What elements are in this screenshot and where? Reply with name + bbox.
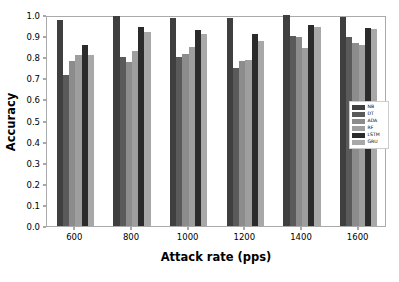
y-tick-label: 0.8 <box>26 53 40 63</box>
x-tick-mark <box>131 227 132 230</box>
legend-item-lstm[interactable]: LSTM <box>352 132 386 139</box>
x-tick-mark <box>357 227 358 230</box>
x-axis-label: Attack rate (pps) <box>46 250 386 264</box>
legend-swatch-rf <box>352 126 365 131</box>
y-tick-label: 1.0 <box>26 11 40 21</box>
legend-label: NB <box>368 105 375 110</box>
legend-label: LSTM <box>368 133 380 138</box>
y-tick-label: 0.1 <box>26 201 40 211</box>
legend-swatch-nb <box>352 105 365 110</box>
y-tick-label: 0.5 <box>26 117 40 127</box>
legend: NBDTADARFLSTMGRU <box>349 101 389 149</box>
y-tick-label: 0.3 <box>26 159 40 169</box>
legend-item-ada[interactable]: ADA <box>352 118 386 125</box>
legend-swatch-lstm <box>352 133 365 138</box>
legend-item-dt[interactable]: DT <box>352 111 386 118</box>
bar <box>144 32 150 226</box>
figure: Accuracy 0.00.10.20.30.40.50.60.70.80.91… <box>0 0 399 282</box>
x-tick-mark <box>187 227 188 230</box>
legend-swatch-gru <box>352 140 365 145</box>
bar <box>201 34 207 226</box>
legend-label: ADA <box>368 119 378 124</box>
legend-item-rf[interactable]: RF <box>352 125 386 132</box>
y-tick-label: 0.6 <box>26 95 40 105</box>
legend-label: DT <box>368 112 374 117</box>
x-tick-label: 600 <box>66 232 82 242</box>
plot-area <box>46 16 386 227</box>
x-tick-mark <box>244 227 245 230</box>
legend-label: RF <box>368 126 374 131</box>
bar <box>314 27 320 226</box>
y-tick-label: 0.0 <box>26 222 40 232</box>
y-tick-label: 0.7 <box>26 74 40 84</box>
legend-swatch-ada <box>352 119 365 124</box>
x-tick-mark <box>74 227 75 230</box>
y-tick-label: 0.4 <box>26 138 40 148</box>
legend-label: GRU <box>368 140 378 145</box>
y-axis: 0.00.10.20.30.40.50.60.70.80.91.0 <box>0 16 46 227</box>
legend-item-nb[interactable]: NB <box>352 104 386 111</box>
x-tick-label: 800 <box>123 232 139 242</box>
x-tick-label: 1200 <box>234 232 256 242</box>
bar <box>88 55 94 226</box>
x-tick-label: 1000 <box>177 232 199 242</box>
legend-swatch-dt <box>352 112 365 117</box>
bar <box>258 41 264 226</box>
x-tick-mark <box>301 227 302 230</box>
y-tick-label: 0.2 <box>26 180 40 190</box>
y-tick-label: 0.9 <box>26 32 40 42</box>
x-tick-label: 1400 <box>290 232 312 242</box>
x-tick-label: 1600 <box>347 232 369 242</box>
legend-item-gru[interactable]: GRU <box>352 139 386 146</box>
